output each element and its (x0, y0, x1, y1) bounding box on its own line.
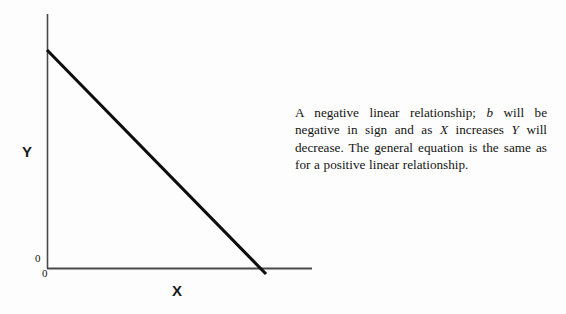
negative-slope-line (47, 50, 266, 274)
x-origin-tick-label: 0 (42, 268, 48, 279)
coordinate-plot (0, 0, 320, 314)
x-axis-title: X (172, 283, 183, 298)
figure-page: Y X 0 0 A negative linear relationship; … (0, 0, 566, 314)
figure-caption-text: A negative linear relationship; b will b… (295, 104, 547, 174)
y-axis-title: Y (22, 144, 33, 159)
caption-run: A negative linear relationship; (295, 105, 486, 120)
caption-run: increases (448, 122, 512, 137)
plot-area: Y X 0 0 (0, 0, 320, 314)
y-origin-tick-label: 0 (35, 253, 41, 264)
math-variable: X (440, 122, 448, 137)
math-variable: Y (512, 122, 519, 137)
caption-block: A negative linear relationship; b will b… (295, 104, 547, 174)
